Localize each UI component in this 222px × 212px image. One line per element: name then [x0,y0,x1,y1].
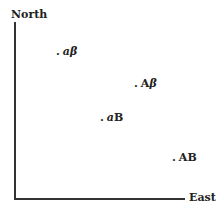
point-a-B: .aB [100,112,123,123]
point-prefix: a [63,45,70,58]
point-prefix: a [107,111,114,124]
point-A-beta: .Aβ [134,78,157,89]
point-suffix: B [187,151,196,164]
point-dot: . [172,151,176,164]
point-a-beta: .aβ [56,46,77,57]
point-suffix: B [114,111,123,124]
x-axis [14,198,185,200]
point-A-B: .AB [172,152,197,163]
y-axis [14,22,16,200]
point-suffix: β [70,45,77,58]
y-axis-label: North [11,9,47,20]
point-dot: . [100,111,104,124]
point-dot: . [56,45,60,58]
point-dot: . [134,77,138,90]
point-suffix: β [149,77,156,90]
x-axis-label: East [189,192,216,203]
